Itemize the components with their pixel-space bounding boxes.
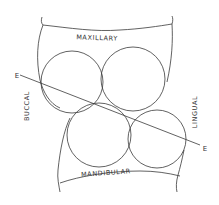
plane-end-label: E [203, 145, 207, 153]
maxillary-left-side [38, 25, 60, 108]
maxillary-outline [41, 16, 172, 31]
lingual-label: LINGUAL [191, 96, 199, 128]
lower-right-tooth [128, 110, 186, 168]
maxillary-right-side [167, 24, 172, 82]
mandibular-left-side [58, 118, 70, 192]
mandibular-label: MANDIBULAR [81, 167, 131, 178]
occlusion-diagram: MAXILLARY MANDIBULAR BUCCAL LINGUAL E E [0, 0, 219, 205]
upper-right-tooth [101, 47, 165, 111]
plane-line [20, 75, 200, 145]
buccal-label: BUCCAL [23, 91, 31, 121]
plane-start-label: E [15, 72, 19, 80]
lower-left-tooth [67, 103, 131, 167]
maxillary-label: MAXILLARY [76, 33, 118, 42]
